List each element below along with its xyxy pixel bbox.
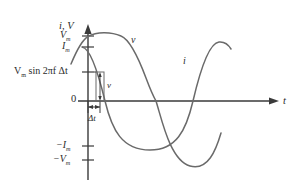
tick-label-Im: Im: [62, 41, 70, 53]
x-axis-arrowhead: [269, 98, 279, 105]
y-axis-arrowhead: [84, 24, 91, 34]
expression-label-rest: sin 2πf Δt: [26, 65, 68, 76]
waveform-figure: i, V t Vm Im Vm sin 2πf Δt 0 Δt v −Im −V…: [0, 0, 304, 189]
tick-label-minus-Vm-sub: m: [66, 159, 70, 166]
tick-label-minus-Im-main: −I: [56, 139, 66, 150]
instantaneous-voltage-arrow-down: [98, 96, 101, 101]
tick-label-minus-Vm-main: −V: [53, 153, 66, 164]
instantaneous-voltage-label: v: [107, 81, 111, 90]
origin-label: 0: [71, 94, 76, 105]
delta-t-arrow-right: [95, 105, 100, 109]
delta-t-arrow-left: [88, 105, 93, 109]
curve-v: [71, 33, 221, 167]
tick-label-minus-Vm: −Vm: [53, 154, 70, 166]
plot-canvas: [0, 0, 304, 189]
expression-label: Vm sin 2πf Δt: [14, 66, 68, 78]
curve-label-v: v: [131, 35, 135, 45]
delta-t-label: Δt: [88, 114, 96, 123]
tick-label-minus-Im-sub: m: [66, 145, 70, 152]
tick-label-Im-sub: m: [65, 46, 69, 53]
x-axis-title: t: [283, 96, 286, 107]
instantaneous-voltage-arrow-up: [98, 72, 101, 77]
curve-label-i: i: [183, 56, 186, 66]
tick-label-minus-Im: −Im: [56, 140, 71, 152]
